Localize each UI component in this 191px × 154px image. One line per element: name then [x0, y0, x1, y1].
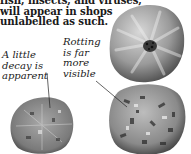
caption-line: visible [63, 69, 101, 80]
fresh-tomato-image [110, 5, 185, 82]
caption-line: Rotting [63, 37, 101, 48]
caption-line: A little [2, 50, 48, 61]
caption-line: more [63, 58, 101, 69]
caption-rotting-visible: Rotting is far more visible [63, 37, 101, 79]
slightly-decayed-tomato-image [11, 97, 74, 154]
caption-line: apparent [2, 71, 48, 82]
caption-little-decay: A little decay is apparent [2, 50, 48, 82]
rotting-tomato-image [109, 84, 185, 154]
